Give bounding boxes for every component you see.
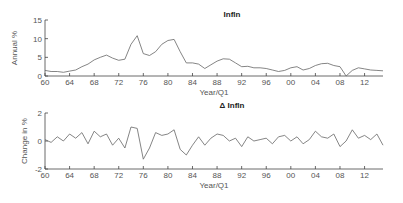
x-tick-label: 92 <box>237 171 246 180</box>
change-title: Δ Infln <box>220 101 245 110</box>
x-tick-label: 08 <box>336 78 345 87</box>
y-tick-label: 15 <box>33 16 42 25</box>
inflation-title: Infln <box>224 10 241 19</box>
x-tick-label: 12 <box>360 171 369 180</box>
change-panel: Δ Infln Change in % -2026064687276808488… <box>20 101 383 190</box>
x-tick-label: 96 <box>262 78 271 87</box>
y-tick-label: 0 <box>38 137 43 146</box>
inflation-xlabel: Year/Q1 <box>199 88 229 97</box>
y-tick-label: 2 <box>38 109 43 118</box>
y-tick-label: 5 <box>38 53 43 62</box>
x-tick-label: 84 <box>188 78 197 87</box>
x-tick-label: 60 <box>41 78 50 87</box>
x-tick-label: 88 <box>213 171 222 180</box>
x-tick-label: 72 <box>114 171 123 180</box>
x-tick-label: 92 <box>237 78 246 87</box>
x-tick-label: 84 <box>188 171 197 180</box>
inflation-axes: 0510156064687276808488929600040812 <box>33 16 383 87</box>
x-tick-label: 64 <box>65 78 74 87</box>
x-tick-label: 12 <box>360 78 369 87</box>
x-tick-label: 04 <box>311 78 320 87</box>
x-tick-label: 80 <box>163 171 172 180</box>
x-tick-label: 72 <box>114 78 123 87</box>
x-tick-label: 00 <box>286 78 295 87</box>
change-ylabel: Change in % <box>20 118 29 164</box>
x-tick-label: 88 <box>213 78 222 87</box>
change-xlabel: Year/Q1 <box>199 181 229 190</box>
x-tick-label: 68 <box>90 171 99 180</box>
x-tick-label: 80 <box>163 78 172 87</box>
x-tick-label: 64 <box>65 171 74 180</box>
x-tick-label: 60 <box>41 171 50 180</box>
x-tick-label: 04 <box>311 171 320 180</box>
x-tick-label: 08 <box>336 171 345 180</box>
x-tick-label: 68 <box>90 78 99 87</box>
y-tick-label: 10 <box>33 35 42 44</box>
change-line <box>45 127 383 159</box>
inflation-ylabel: Annual % <box>10 31 19 65</box>
inflation-panel: Infln Annual % 0510156064687276808488929… <box>10 10 383 97</box>
x-tick-label: 00 <box>286 171 295 180</box>
inflation-line <box>45 36 383 76</box>
x-tick-label: 96 <box>262 171 271 180</box>
figure: Infln Annual % 0510156064687276808488929… <box>0 0 403 203</box>
change-axes: -2026064687276808488929600040812 <box>35 109 383 180</box>
x-tick-label: 76 <box>139 171 148 180</box>
x-tick-label: 76 <box>139 78 148 87</box>
